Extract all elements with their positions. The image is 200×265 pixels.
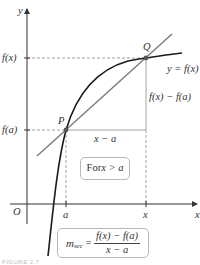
point-p <box>64 128 69 133</box>
run-label: x − a <box>94 134 116 145</box>
point-q-label: Q <box>143 42 151 53</box>
formula-lhs-sub: sec <box>74 243 83 250</box>
dashed-guides <box>27 58 146 204</box>
y-axis-label: y <box>18 6 23 17</box>
condition-prefix: For <box>87 163 102 174</box>
function-curve <box>48 53 182 256</box>
figure-caption: FIGURE 2.7 <box>2 259 40 265</box>
formula-numerator: f(x) − f(a) <box>94 231 140 244</box>
y-tick-fx: f(x) <box>2 53 17 64</box>
formula-equals: = <box>83 238 94 249</box>
x-axis-label: x <box>195 210 200 221</box>
condition-box: For x > a <box>80 157 130 180</box>
point-q <box>144 56 149 61</box>
condition-expr: x > a <box>101 163 123 174</box>
x-tick-a: a <box>63 210 68 221</box>
x-tick-x: x <box>143 210 148 221</box>
formula-box: msec = f(x) − f(a) x − a <box>57 228 149 258</box>
y-tick-fa: f(a) <box>2 125 17 136</box>
formula-fraction: f(x) − f(a) x − a <box>94 231 140 255</box>
curve-label: y = f(x) <box>167 64 199 75</box>
origin-label: O <box>13 207 21 218</box>
formula-denominator: x − a <box>106 244 128 256</box>
rise-label: f(x) − f(a) <box>149 92 191 103</box>
point-p-label: P <box>58 116 64 127</box>
formula-lhs: m <box>66 238 74 249</box>
